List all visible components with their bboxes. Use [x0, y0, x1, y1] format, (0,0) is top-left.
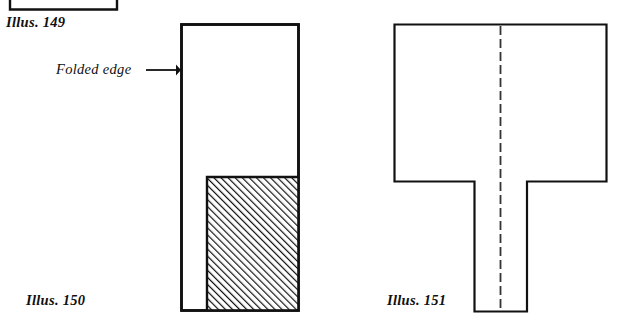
figure-illus-149 [10, 0, 117, 10]
illustration-canvas [0, 0, 624, 325]
figure-illus-150 [146, 25, 299, 312]
figure-illus-151 [395, 25, 607, 312]
illus-149-outline [10, 0, 117, 10]
caption-illus-151: Illus. 151 [387, 292, 446, 309]
caption-illus-150: Illus. 150 [26, 292, 85, 309]
caption-illus-149: Illus. 149 [6, 14, 65, 31]
label-folded-edge: Folded edge [56, 61, 131, 78]
folded-edge-arrow-icon [146, 65, 181, 76]
diagram-page: Illus. 149 Illus. 150 Illus. 151 Folded … [0, 0, 624, 325]
illus-150-hatched-region-fill [207, 177, 299, 311]
